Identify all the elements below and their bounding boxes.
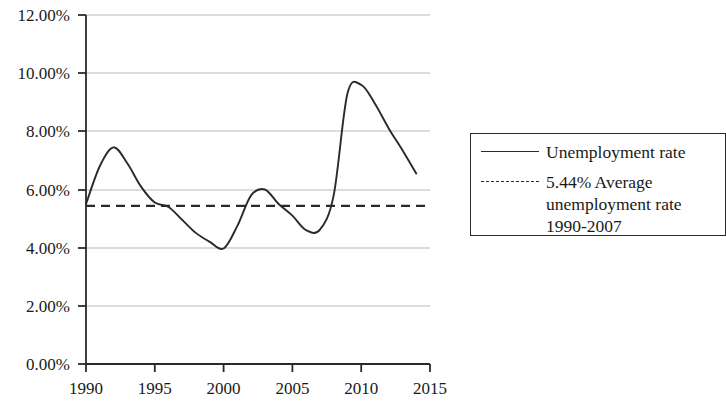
- x-tick-label: 2000: [207, 379, 241, 398]
- y-axis-tick-labels: 12.00% 10.00% 8.00% 6.00% 4.00% 2.00% 0.…: [18, 6, 70, 374]
- legend-entry-unemployment-rate: Unemployment rate: [481, 141, 685, 163]
- x-tick-label: 2010: [344, 379, 378, 398]
- y-tick-label: 0.00%: [26, 355, 70, 374]
- x-axis-tick-labels: 1990 1995 2000 2005 2010 2015: [69, 379, 447, 398]
- y-tick-label: 4.00%: [26, 239, 70, 258]
- legend-label: Unemployment rate: [546, 141, 685, 163]
- x-tick-label: 1995: [138, 379, 172, 398]
- y-tick-marks: [78, 15, 86, 364]
- legend-label: 5.44% Average unemployment rate 1990-200…: [546, 171, 682, 237]
- solid-line-swatch-icon: [481, 151, 539, 152]
- x-tick-label: 1990: [69, 379, 103, 398]
- dashed-line-swatch-icon: [481, 181, 539, 182]
- y-tick-label: 10.00%: [18, 64, 70, 83]
- gridlines: [86, 15, 430, 306]
- y-tick-label: 8.00%: [26, 122, 70, 141]
- chart-legend: Unemployment rate 5.44% Average unemploy…: [470, 133, 726, 236]
- x-tick-marks: [86, 364, 430, 372]
- unemployment-rate-line: [86, 82, 416, 250]
- y-tick-label: 2.00%: [26, 297, 70, 316]
- legend-entry-average-rate: 5.44% Average unemployment rate 1990-200…: [481, 171, 682, 237]
- x-tick-label: 2005: [275, 379, 309, 398]
- x-tick-label: 2015: [413, 379, 447, 398]
- y-tick-label: 12.00%: [18, 6, 70, 25]
- y-tick-label: 6.00%: [26, 181, 70, 200]
